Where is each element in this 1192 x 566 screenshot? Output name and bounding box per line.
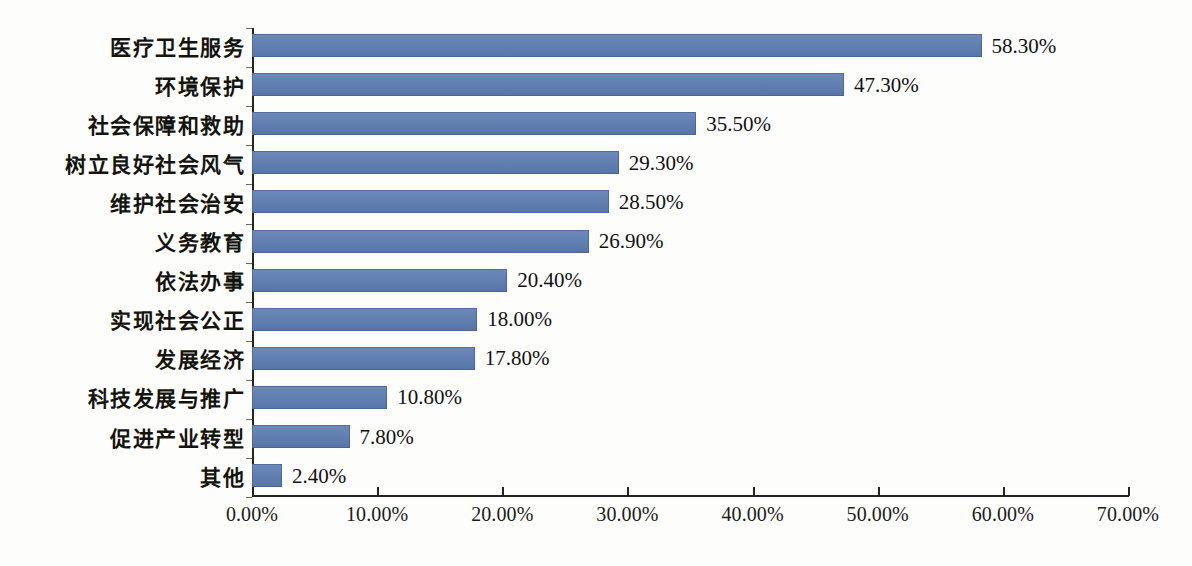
x-axis-tick [377, 487, 379, 496]
x-axis-tick [1128, 487, 1130, 496]
x-axis-tick [502, 487, 504, 496]
category-label: 义务教育 [155, 226, 245, 256]
bar [252, 347, 475, 370]
bar-value-label: 58.30% [992, 33, 1057, 58]
bar [252, 308, 477, 331]
bar [252, 112, 696, 135]
x-axis-tick-label: 50.00% [847, 503, 909, 526]
category-label: 促进产业转型 [110, 422, 245, 452]
x-axis-tick-label: 40.00% [721, 503, 783, 526]
bar [252, 464, 282, 487]
x-axis-tick-label: 30.00% [596, 503, 658, 526]
x-axis-tick-label: 70.00% [1097, 503, 1159, 526]
category-label: 其他 [200, 461, 245, 491]
category-label: 树立良好社会风气 [65, 148, 245, 178]
y-axis-tick [246, 380, 252, 381]
bar-value-label: 29.30% [629, 150, 694, 175]
x-axis-tick-label: 10.00% [346, 503, 408, 526]
x-axis-tick [1003, 487, 1005, 496]
category-label: 依法办事 [155, 265, 245, 295]
y-axis-tick [246, 28, 252, 29]
bar-value-label: 2.40% [292, 463, 346, 488]
category-label: 科技发展与推广 [88, 382, 246, 412]
category-label: 社会保障和救助 [88, 109, 246, 139]
x-axis-tick [252, 487, 254, 496]
bar [252, 190, 609, 213]
bar [252, 230, 589, 253]
y-axis-tick [246, 497, 252, 498]
bar-chart: 医疗卫生服务58.30%环境保护47.30%社会保障和救助35.50%树立良好社… [0, 0, 1192, 566]
bar-value-label: 35.50% [706, 111, 771, 136]
x-axis-tick-label: 60.00% [972, 503, 1034, 526]
y-axis-tick [246, 341, 252, 342]
x-axis-tick [627, 487, 629, 496]
category-label: 环境保护 [155, 70, 245, 100]
bar [252, 151, 619, 174]
x-axis-line [252, 495, 1129, 497]
y-axis-tick [246, 302, 252, 303]
bar [252, 425, 350, 448]
bar [252, 386, 387, 409]
y-axis-tick [246, 458, 252, 459]
x-axis-tick-label: 0.00% [226, 503, 278, 526]
y-axis-tick [246, 67, 252, 68]
bar-value-label: 26.90% [599, 229, 664, 254]
bar-value-label: 17.80% [485, 346, 550, 371]
category-label: 医疗卫生服务 [110, 31, 245, 61]
x-axis-tick [753, 487, 755, 496]
bar-value-label: 10.80% [397, 385, 462, 410]
bar [252, 269, 507, 292]
category-label: 实现社会公正 [110, 304, 245, 334]
category-label: 发展经济 [155, 343, 245, 373]
bar-value-label: 7.80% [360, 424, 414, 449]
y-axis-tick [246, 106, 252, 107]
y-axis-tick [246, 263, 252, 264]
y-axis-tick [246, 224, 252, 225]
category-label: 维护社会治安 [110, 187, 245, 217]
bar [252, 73, 844, 96]
bar-value-label: 18.00% [487, 307, 552, 332]
x-axis-tick-label: 20.00% [471, 503, 533, 526]
bar-value-label: 20.40% [517, 268, 582, 293]
y-axis-tick [246, 419, 252, 420]
bar-value-label: 28.50% [619, 189, 684, 214]
y-axis-tick [246, 145, 252, 146]
bar [252, 34, 982, 57]
y-axis-tick [246, 184, 252, 185]
bar-value-label: 47.30% [854, 72, 919, 97]
x-axis-tick [878, 487, 880, 496]
